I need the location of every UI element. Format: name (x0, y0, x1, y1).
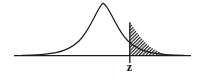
shaded-tail-region (128, 18, 180, 56)
bell-curve-path (22, 3, 184, 55)
normal-distribution-figure: z (0, 0, 203, 81)
normal-curve-svg (0, 0, 203, 81)
